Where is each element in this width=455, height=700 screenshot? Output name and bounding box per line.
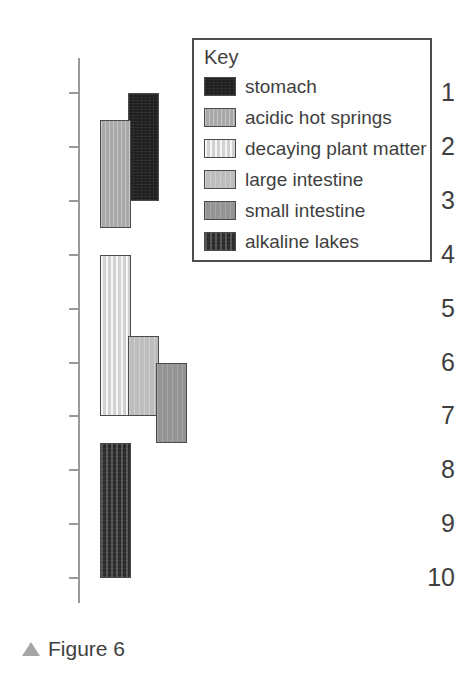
- y-axis-label-10: 10: [411, 565, 455, 590]
- legend-item-decaying-plant-matter: decaying plant matter: [204, 133, 430, 164]
- y-axis-tick-6: [69, 362, 78, 364]
- bar-small-intestine: [156, 363, 187, 444]
- ph-range-figure: 12345678910 Key stomachacidic hot spring…: [0, 0, 455, 700]
- legend-items: stomachacidic hot springsdecaying plant …: [202, 71, 430, 257]
- y-axis-label-5: 5: [411, 296, 455, 321]
- y-axis-tick-1: [69, 92, 78, 94]
- chart-plot-area: 12345678910 Key stomachacidic hot spring…: [0, 0, 455, 615]
- stomach-swatch: [204, 77, 236, 96]
- legend-label-large-intestine: large intestine: [245, 169, 363, 190]
- chart-legend: Key stomachacidic hot springsdecaying pl…: [192, 38, 432, 262]
- y-axis-label-9: 9: [411, 511, 455, 536]
- bar-large-intestine: [128, 336, 159, 417]
- legend-label-decaying-plant-matter: decaying plant matter: [245, 138, 427, 159]
- y-axis-label-8: 8: [411, 457, 455, 482]
- acidic-hot-springs-swatch: [204, 108, 236, 127]
- y-axis-tick-4: [69, 254, 78, 256]
- y-axis-tick-8: [69, 469, 78, 471]
- bar-decaying-plant-matter: [100, 255, 131, 417]
- figure-caption: Figure 6: [22, 637, 125, 661]
- legend-title: Key: [204, 45, 430, 69]
- legend-label-stomach: stomach: [245, 76, 317, 97]
- decaying-plant-matter-swatch: [204, 139, 236, 158]
- triangle-up-icon: [22, 642, 40, 656]
- legend-item-stomach: stomach: [204, 71, 430, 102]
- legend-item-small-intestine: small intestine: [204, 195, 430, 226]
- y-axis-tick-10: [69, 577, 78, 579]
- legend-label-alkaline-lakes: alkaline lakes: [245, 231, 359, 252]
- bar-alkaline-lakes: [100, 443, 131, 578]
- legend-item-large-intestine: large intestine: [204, 164, 430, 195]
- y-axis-label-7: 7: [411, 403, 455, 428]
- y-axis-line: [78, 58, 80, 603]
- bar-acidic-hot-springs: [100, 120, 131, 228]
- y-axis-tick-7: [69, 415, 78, 417]
- large-intestine-swatch: [204, 170, 236, 189]
- legend-label-small-intestine: small intestine: [245, 200, 365, 221]
- y-axis-tick-9: [69, 523, 78, 525]
- legend-item-alkaline-lakes: alkaline lakes: [204, 226, 430, 257]
- figure-caption-text: Figure 6: [48, 637, 125, 661]
- small-intestine-swatch: [204, 201, 236, 220]
- y-axis-tick-2: [69, 146, 78, 148]
- bar-stomach: [128, 93, 159, 201]
- y-axis-label-6: 6: [411, 350, 455, 375]
- legend-label-acidic-hot-springs: acidic hot springs: [245, 107, 392, 128]
- y-axis-tick-3: [69, 200, 78, 202]
- y-axis-tick-5: [69, 308, 78, 310]
- legend-item-acidic-hot-springs: acidic hot springs: [204, 102, 430, 133]
- alkaline-lakes-swatch: [204, 232, 236, 251]
